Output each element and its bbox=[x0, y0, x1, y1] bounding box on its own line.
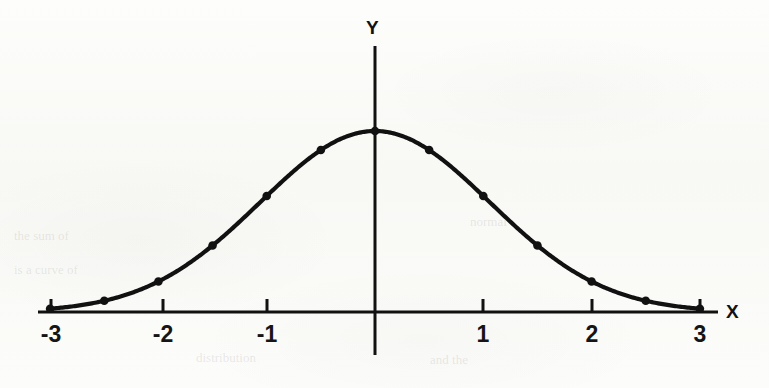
x-tick-label--2: -2 bbox=[153, 323, 173, 346]
figure-canvas: the sum of is a curve of normal distribu… bbox=[0, 0, 769, 388]
x-tick-label-2: 2 bbox=[586, 323, 599, 346]
data-point-marker bbox=[208, 241, 217, 250]
x-tick-label--3: -3 bbox=[41, 323, 61, 346]
data-point-marker bbox=[46, 304, 55, 313]
data-point-marker bbox=[317, 146, 326, 155]
x-tick-label--1: -1 bbox=[257, 323, 277, 346]
y-axis-label: Y bbox=[366, 18, 379, 37]
data-point-marker bbox=[425, 146, 434, 155]
data-point-marker bbox=[371, 127, 380, 136]
data-point-marker bbox=[641, 296, 650, 305]
data-point-marker bbox=[587, 277, 596, 286]
x-axis-label: X bbox=[726, 302, 739, 321]
data-point-marker bbox=[262, 192, 271, 201]
x-tick-label-3: 3 bbox=[694, 323, 707, 346]
gaussian-curve-plot bbox=[0, 0, 769, 388]
data-point-marker bbox=[696, 304, 705, 313]
data-point-marker bbox=[100, 296, 109, 305]
data-point-marker bbox=[533, 241, 542, 250]
data-point-marker bbox=[154, 277, 163, 286]
x-tick-label-1: 1 bbox=[477, 323, 490, 346]
data-point-marker bbox=[479, 192, 488, 201]
